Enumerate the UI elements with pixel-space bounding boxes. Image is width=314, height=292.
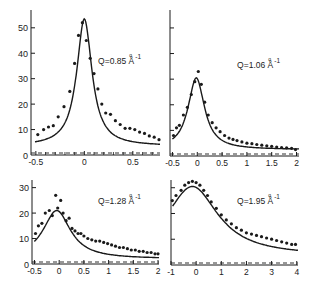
data-point <box>290 147 293 150</box>
data-point <box>148 134 151 137</box>
data-point <box>106 242 109 245</box>
y-tick-label: 10 <box>19 234 29 244</box>
x-tick-label: -0.5 <box>29 157 44 167</box>
svg-text:o: o <box>129 192 132 198</box>
data-point <box>230 222 233 225</box>
data-point <box>250 142 253 145</box>
data-point <box>290 243 293 246</box>
data-point <box>89 57 92 60</box>
data-point <box>126 247 129 250</box>
data-point <box>175 126 178 129</box>
data-point <box>294 243 297 246</box>
data-point <box>142 250 145 253</box>
panel-q085: 01020304050-0.500.5Q=0.85 Åo-1 <box>18 10 161 167</box>
data-point <box>37 224 40 227</box>
data-point <box>68 90 71 93</box>
data-point <box>56 206 59 209</box>
data-point <box>197 70 200 73</box>
data-point <box>119 123 122 126</box>
data-point <box>190 93 193 96</box>
data-point <box>255 234 258 237</box>
data-point <box>86 237 89 240</box>
data-point <box>133 128 136 131</box>
svg-text:o: o <box>129 52 132 58</box>
data-point <box>110 243 113 246</box>
data-point <box>294 148 297 151</box>
data-point <box>235 139 238 142</box>
data-point <box>40 222 43 225</box>
x-tick-label: 1 <box>106 266 111 276</box>
data-point <box>65 219 68 222</box>
q-unit-exponent: -1 <box>135 53 141 60</box>
y-tick-label: 30 <box>18 74 28 84</box>
fit-curve <box>172 78 299 149</box>
data-point <box>210 200 213 203</box>
data-point <box>207 113 210 116</box>
data-point <box>85 39 88 42</box>
data-point <box>77 34 80 37</box>
data-point <box>124 127 127 130</box>
svg-text:o: o <box>268 192 271 198</box>
data-point <box>198 184 201 187</box>
data-point <box>68 217 71 220</box>
data-point <box>146 251 149 254</box>
data-point <box>70 227 73 230</box>
data-point <box>102 241 105 244</box>
data-point <box>51 214 54 217</box>
x-tick-label: -1 <box>167 267 175 277</box>
data-point <box>215 126 218 129</box>
data-point <box>138 131 141 134</box>
data-point <box>82 234 85 237</box>
data-point <box>174 194 177 197</box>
data-point <box>73 229 76 232</box>
data-point <box>182 113 185 116</box>
panel-q106: -0.500.511.52Q=1.06 Åo-1 <box>165 10 299 168</box>
data-point <box>270 145 273 148</box>
x-tick-label: 0.5 <box>78 266 90 276</box>
data-point <box>128 127 131 130</box>
data-point <box>203 101 206 104</box>
data-point <box>275 145 278 148</box>
data-point <box>227 137 230 140</box>
data-point <box>220 213 223 216</box>
data-point <box>138 250 141 253</box>
data-point <box>280 146 283 149</box>
y-tick-label: 50 <box>18 23 28 33</box>
data-point <box>180 189 183 192</box>
four-panel-scattering-plot: 01020304050-0.500.5Q=0.85 Åo-1 -0.500.51… <box>0 0 314 292</box>
data-point <box>54 194 57 197</box>
data-point <box>100 103 103 106</box>
data-point <box>150 251 153 254</box>
data-point <box>114 245 117 248</box>
data-point <box>34 232 37 235</box>
data-point <box>81 21 84 24</box>
panel-q128: 0102030-0.500.511.52Q=1.28 Åo-1 <box>19 180 161 276</box>
data-point <box>48 209 51 212</box>
y-tick-label: 30 <box>19 183 29 193</box>
data-point <box>211 121 214 124</box>
data-point <box>255 143 258 146</box>
x-tick-label: 0.5 <box>127 157 139 167</box>
data-point <box>235 226 238 229</box>
data-point <box>130 248 133 251</box>
data-point <box>62 105 65 108</box>
data-point <box>79 232 82 235</box>
data-point <box>186 106 189 109</box>
y-tick-label: 20 <box>18 100 28 110</box>
data-point <box>171 199 174 202</box>
data-point <box>280 240 283 243</box>
data-point <box>52 124 55 127</box>
data-point <box>172 134 175 137</box>
x-tick-label: 1.5 <box>266 158 278 168</box>
data-point <box>156 252 159 255</box>
data-point <box>275 239 278 242</box>
data-point <box>73 62 76 65</box>
data-point <box>118 246 121 249</box>
data-point <box>250 233 253 236</box>
data-point <box>36 133 39 136</box>
data-point <box>122 246 125 249</box>
y-tick-label: 0 <box>23 151 28 161</box>
data-point <box>202 189 205 192</box>
data-point <box>240 140 243 143</box>
panel-q195: -101234Q=1.95 Åo-1 <box>167 180 299 277</box>
